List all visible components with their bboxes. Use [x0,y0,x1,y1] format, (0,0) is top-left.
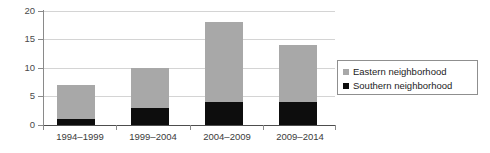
y-tick-20 [38,11,43,12]
y-tick-15 [38,39,43,40]
legend-item-southern[interactable]: Southern neighborhood [343,79,477,92]
y-axis-label-20: 20 [9,6,35,16]
x-axis-label-1999-2004: 1999–2004 [115,131,191,142]
x-axis-label-2009-2014: 2009–2014 [262,131,338,142]
legend-label-southern: Southern neighborhood [353,80,452,91]
x-tick-1 [116,125,117,130]
x-axis-label-1994-1999: 1994–1999 [42,131,118,142]
bar-segment-southern [131,108,169,125]
bar-1994-1999[interactable] [57,85,95,125]
y-axis-label-0: 0 [9,120,35,130]
bar-segment-eastern [131,68,169,108]
y-axis-label-10: 10 [9,63,35,73]
bar-segment-eastern [279,45,317,102]
y-axis-line [43,10,44,126]
x-tick-2 [190,125,191,130]
y-tick-5 [38,96,43,97]
plot-area [43,11,335,125]
bar-segment-eastern [57,85,95,119]
x-tick-4 [335,125,336,130]
bar-segment-eastern [205,22,243,102]
bar-2004-2009[interactable] [205,22,243,125]
legend-swatch-icon-eastern [343,69,349,75]
legend-item-eastern[interactable]: Eastern neighborhood [343,65,477,78]
bar-1999-2004[interactable] [131,68,169,125]
gridline-15 [43,39,335,40]
bar-2009-2014[interactable] [279,45,317,125]
chart-legend: Eastern neighborhood Southern neighborho… [337,60,478,95]
legend-label-eastern: Eastern neighborhood [353,66,447,77]
gridline-20 [43,11,335,12]
y-tick-10 [38,68,43,69]
y-axis-label-15: 15 [9,34,35,44]
x-tick-3 [263,125,264,130]
bar-segment-southern [279,102,317,125]
bar-segment-southern [205,102,243,125]
legend-swatch-icon-southern [343,83,349,89]
x-axis-label-2004-2009: 2004–2009 [189,131,265,142]
stacked-bar-chart: 20 15 10 5 0 1994–1999 1999–2004 2004–20… [0,0,490,153]
x-tick-0 [43,125,44,130]
y-axis-label-5: 5 [9,91,35,101]
